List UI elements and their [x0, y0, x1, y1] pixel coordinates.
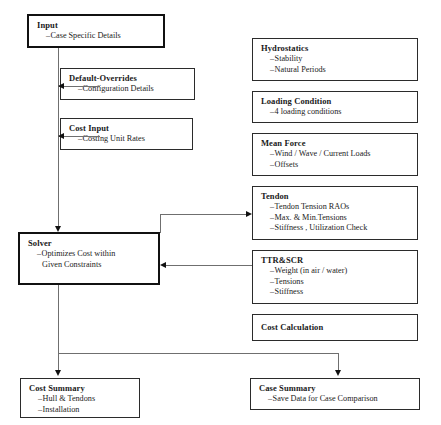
node-cost-input-title: Cost Input — [69, 123, 186, 134]
connector-solver-to-tendon-line — [160, 214, 246, 215]
dash-glyph: – — [270, 213, 274, 222]
node-default-overrides: Default-Overrides –Configuration Details — [60, 68, 195, 100]
node-ttr-scr-item-1: –Tensions — [261, 277, 411, 288]
node-cost-calculation: Cost Calculation — [252, 314, 418, 341]
node-cost-summary-title: Cost Summary — [29, 383, 133, 394]
node-mean-force-item-1: –Offsets — [261, 160, 411, 171]
node-tendon-title: Tendon — [261, 191, 411, 202]
connector-default-overrides-arrowhead — [58, 83, 64, 89]
node-input: Input –Case Specific Details — [27, 14, 165, 48]
node-cost-summary: Cost Summary –Hull & Tendons –Installati… — [20, 378, 140, 418]
dash-glyph: – — [270, 287, 274, 296]
connector-solver-to-tendon-arrowhead — [246, 211, 252, 217]
dash-glyph: – — [270, 160, 274, 169]
connector-cost-input-arrowhead — [58, 133, 64, 139]
node-mean-force: Mean Force –Wind / Wave / Current Loads … — [252, 133, 418, 176]
connector-input-to-solver-arrowhead — [55, 226, 61, 232]
node-cost-input: Cost Input –Costing Unit Rates — [60, 118, 193, 150]
dash-glyph: – — [270, 266, 274, 275]
connector-solver-output-branch — [58, 353, 338, 354]
dash-glyph: – — [268, 394, 272, 403]
dash-glyph: – — [38, 405, 42, 414]
node-hydrostatics-item-1: –Natural Periods — [261, 65, 411, 76]
node-ttr-scr-item-0: –Weight (in air / water) — [261, 266, 411, 277]
node-ttr-scr: TTR&SCR –Weight (in air / water) –Tensio… — [252, 250, 418, 304]
connector-ttrscr-to-solver-arrowhead — [160, 262, 166, 268]
dash-glyph: – — [37, 249, 41, 258]
connector-cost-input-line — [58, 136, 100, 137]
connector-default-overrides-line — [58, 86, 100, 87]
connector-solver-output-spine — [58, 285, 59, 353]
connector-to-case-summary-drop — [338, 353, 339, 370]
node-solver-title: Solver — [28, 238, 152, 249]
node-mean-force-title: Mean Force — [261, 138, 411, 149]
connector-to-case-summary-arrowhead — [335, 370, 341, 376]
node-loading-condition-title: Loading Condition — [261, 96, 411, 107]
node-tendon-item-0: –Tendon Tension RAOs — [261, 202, 411, 213]
node-solver-item-0-continuation: Given Constraints — [28, 260, 152, 271]
dash-glyph: – — [46, 31, 50, 40]
node-loading-condition: Loading Condition –4 loading conditions — [252, 91, 418, 123]
node-case-summary-title: Case Summary — [259, 383, 413, 394]
dash-glyph: – — [38, 394, 42, 403]
node-ttr-scr-item-2: –Stiffness — [261, 287, 411, 298]
node-input-item-0: –Case Specific Details — [37, 31, 157, 42]
node-case-summary: Case Summary –Save Data for Case Compari… — [250, 378, 420, 410]
dash-glyph: – — [270, 223, 274, 232]
connector-to-cost-summary-drop — [58, 353, 59, 370]
node-cost-calculation-title: Cost Calculation — [261, 322, 411, 333]
node-case-summary-item-0: –Save Data for Case Comparison — [259, 394, 413, 405]
node-hydrostatics: Hydrostatics –Stability –Natural Periods — [252, 38, 418, 81]
node-mean-force-item-0: –Wind / Wave / Current Loads — [261, 149, 411, 160]
node-solver-item-0: –Optimizes Cost within — [28, 249, 152, 260]
node-tendon-item-1: –Max. & Min.Tensions — [261, 213, 411, 224]
dash-glyph: – — [270, 149, 274, 158]
node-tendon: Tendon –Tendon Tension RAOs –Max. & Min.… — [252, 186, 418, 240]
connector-solver-to-tendon-riser — [160, 214, 161, 233]
dash-glyph: – — [270, 54, 274, 63]
node-cost-summary-item-1: –Installation — [29, 405, 133, 416]
node-default-overrides-title: Default-Overrides — [69, 73, 188, 84]
node-ttr-scr-title: TTR&SCR — [261, 255, 411, 266]
node-input-title: Input — [37, 20, 157, 31]
node-tendon-item-2: –Stiffness , Utilization Check — [261, 223, 411, 234]
dash-glyph: – — [270, 202, 274, 211]
connector-ttrscr-to-solver-line — [166, 265, 252, 266]
dash-glyph: – — [270, 107, 274, 116]
flowchart-canvas: Input –Case Specific Details Default-Ove… — [0, 0, 441, 425]
dash-glyph: – — [270, 277, 274, 286]
connector-to-cost-summary-arrowhead — [55, 370, 61, 376]
node-hydrostatics-title: Hydrostatics — [261, 43, 411, 54]
node-loading-condition-item-0: –4 loading conditions — [261, 107, 411, 118]
node-solver: Solver –Optimizes Cost within Given Cons… — [18, 232, 160, 285]
dash-glyph: – — [270, 65, 274, 74]
node-cost-summary-item-0: –Hull & Tendons — [29, 394, 133, 405]
node-hydrostatics-item-0: –Stability — [261, 54, 411, 65]
